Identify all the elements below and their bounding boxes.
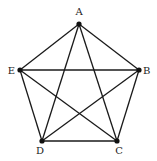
node-B xyxy=(136,67,141,72)
edge-AC xyxy=(79,24,117,141)
node-label-B: B xyxy=(143,65,150,76)
edge-BD xyxy=(42,70,139,141)
edge-CE xyxy=(20,70,117,141)
node-C xyxy=(114,138,119,143)
edge-AD xyxy=(42,24,79,141)
node-label-E: E xyxy=(8,65,15,76)
edge-DE xyxy=(20,70,42,141)
edge-BC xyxy=(117,70,139,141)
node-D xyxy=(39,138,44,143)
node-A xyxy=(76,21,81,26)
edge-AE xyxy=(20,24,79,70)
complete-graph-k5: ABCDE xyxy=(0,0,157,161)
node-label-D: D xyxy=(36,145,44,156)
node-label-A: A xyxy=(74,6,83,17)
edges xyxy=(20,24,139,141)
edge-AB xyxy=(79,24,139,70)
node-label-C: C xyxy=(115,145,123,156)
labels: ABCDE xyxy=(8,6,151,156)
node-E xyxy=(17,67,22,72)
